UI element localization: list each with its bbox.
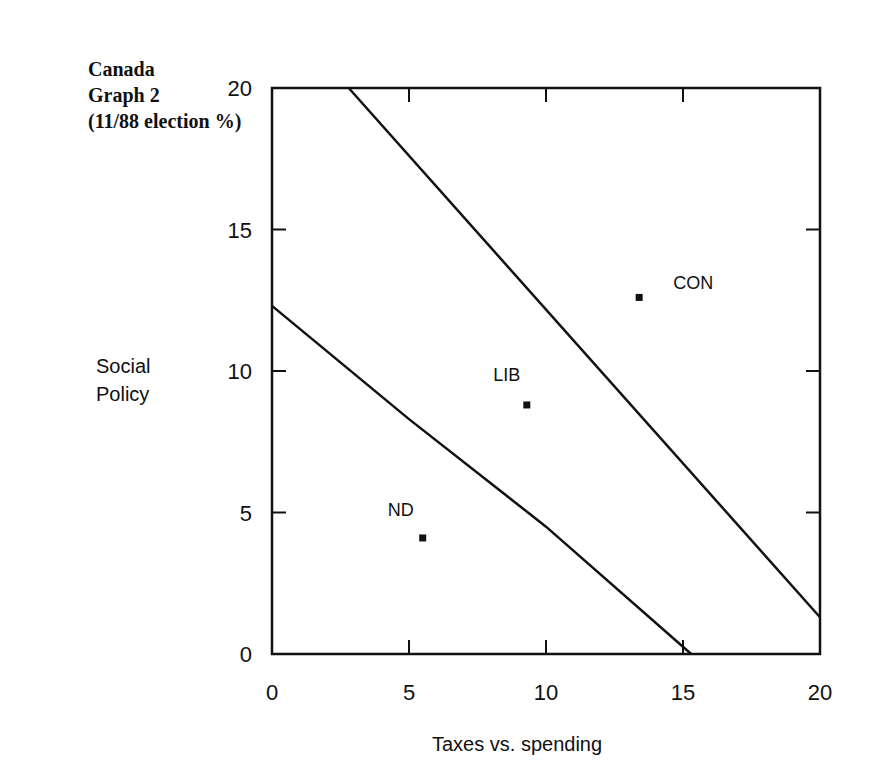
x-tick-label: 5 — [403, 680, 415, 705]
y-tick-label: 0 — [240, 642, 252, 667]
x-tick-label: 0 — [266, 680, 278, 705]
plot-frame — [272, 88, 820, 654]
x-tick-label: 10 — [534, 680, 558, 705]
point-label-con: CON — [673, 273, 713, 293]
x-tick-label: 20 — [808, 680, 832, 705]
boundary-line — [272, 306, 691, 654]
point-label-lib: LIB — [493, 365, 520, 385]
data-point-lib — [523, 401, 530, 408]
y-tick-label: 15 — [228, 218, 252, 243]
y-tick-label: 5 — [240, 501, 252, 526]
point-label-nd: ND — [388, 500, 414, 520]
x-tick-label: 15 — [671, 680, 695, 705]
data-point-nd — [419, 534, 426, 541]
plot-area: 0510152005101520CONLIBND — [0, 0, 870, 773]
y-tick-label: 20 — [228, 76, 252, 101]
y-tick-label: 10 — [228, 359, 252, 384]
data-point-con — [636, 294, 643, 301]
